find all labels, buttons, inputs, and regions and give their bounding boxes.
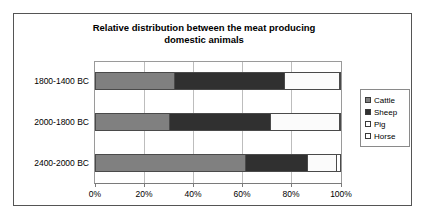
xtick-mark-80 <box>291 183 292 187</box>
legend-swatch-icon-sheep <box>365 109 371 115</box>
legend-item-sheep[interactable]: Sheep <box>365 106 406 118</box>
bar-segment-cattle-1[interactable] <box>95 113 169 131</box>
xtick-label-80: 80% <box>271 189 311 199</box>
bar-segment-cattle-2[interactable] <box>95 154 245 172</box>
chart-legend: Cattle Sheep Pig Horse <box>360 89 410 147</box>
legend-swatch-icon-pig <box>365 121 371 127</box>
bar-segment-sheep-1[interactable] <box>169 113 270 131</box>
legend-item-horse[interactable]: Horse <box>365 130 406 142</box>
xtick-mark-0 <box>95 183 96 187</box>
bar-segment-sheep-0[interactable] <box>174 72 285 90</box>
bar-segment-horse-2[interactable] <box>336 154 341 172</box>
plot-area: 1800-1400 BC 2000-1800 BC 2400-2000 BC <box>94 61 342 184</box>
bar-segment-horse-0[interactable] <box>339 72 341 90</box>
bar-segment-horse-1[interactable] <box>339 113 341 131</box>
table-row: 2000-1800 BC <box>95 113 341 131</box>
category-label-2: 2400-2000 BC <box>13 154 89 172</box>
legend-swatch-icon-horse <box>365 133 371 139</box>
xtick-mark-60 <box>242 183 243 187</box>
table-row: 1800-1400 BC <box>95 72 341 90</box>
legend-item-pig[interactable]: Pig <box>365 118 406 130</box>
bar-segment-cattle-0[interactable] <box>95 72 174 90</box>
legend-label-sheep: Sheep <box>374 108 397 117</box>
xtick-mark-100 <box>341 183 342 187</box>
xtick-label-100: 100% <box>321 189 361 199</box>
category-label-0: 1800-1400 BC <box>13 72 89 90</box>
bar-segment-pig-1[interactable] <box>270 113 339 131</box>
xtick-label-20: 20% <box>124 189 164 199</box>
legend-label-pig: Pig <box>374 120 386 129</box>
bar-segment-pig-0[interactable] <box>284 72 338 90</box>
legend-item-cattle[interactable]: Cattle <box>365 94 406 106</box>
xtick-mark-40 <box>193 183 194 187</box>
chart-title-line-2: domestic animals <box>54 34 354 46</box>
legend-label-cattle: Cattle <box>374 96 395 105</box>
table-row: 2400-2000 BC <box>95 154 341 172</box>
xtick-label-60: 60% <box>222 189 262 199</box>
legend-swatch-icon-cattle <box>365 97 371 103</box>
legend-label-horse: Horse <box>374 132 395 141</box>
chart-frame: Relative distribution between the meat p… <box>13 13 412 206</box>
chart-title: Relative distribution between the meat p… <box>54 22 354 46</box>
chart-title-line-1: Relative distribution between the meat p… <box>54 22 354 34</box>
xtick-label-40: 40% <box>173 189 213 199</box>
category-label-1: 2000-1800 BC <box>13 113 89 131</box>
bar-segment-sheep-2[interactable] <box>245 154 307 172</box>
xtick-label-0: 0% <box>75 189 115 199</box>
bar-segment-pig-2[interactable] <box>307 154 337 172</box>
xtick-mark-20 <box>144 183 145 187</box>
